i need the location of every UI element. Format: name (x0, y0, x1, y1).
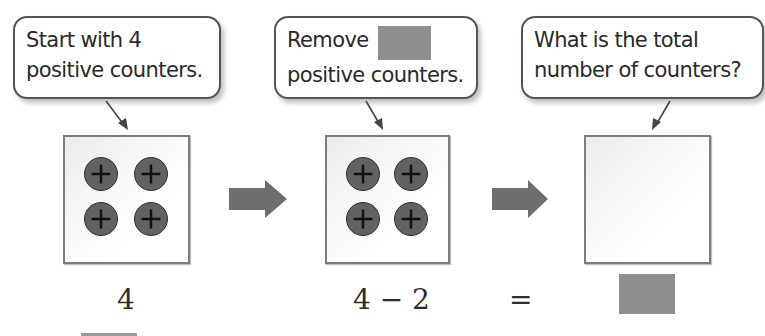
callout-start-line2: positive counters. (26, 55, 219, 85)
callout-remove-line2: positive counters. (287, 60, 476, 90)
callout-start-line1: Start with 4 (26, 25, 219, 55)
callout-remove-verb: Remove (287, 28, 369, 52)
right-arrow-icon (229, 179, 289, 219)
callout-start: Start with 4 positive counters. (13, 16, 221, 99)
counter-mat-result (584, 135, 711, 264)
positive-counter-icon (394, 202, 428, 236)
positive-counter-icon (394, 157, 428, 191)
counter-mat-start (63, 135, 190, 264)
positive-counter-icon (84, 202, 118, 236)
pointer-arrow-icon (640, 99, 680, 135)
removed-count-blank (378, 26, 431, 60)
pointer-arrow-icon (360, 99, 400, 135)
pointer-arrow-icon (100, 99, 140, 135)
positive-counter-icon (346, 157, 380, 191)
callout-remove-line1: Remove (287, 25, 476, 60)
callout-remove: Remove positive counters. (274, 16, 478, 99)
expression-equals: = (509, 283, 532, 316)
counter-mat-remove (325, 135, 450, 264)
positive-counter-icon (84, 157, 118, 191)
expression-subtract: 4 − 2 (353, 283, 430, 316)
positive-counter-icon (346, 202, 380, 236)
callout-total-line1: What is the total (534, 25, 762, 55)
positive-counter-icon (134, 157, 168, 191)
positive-counter-icon (134, 202, 168, 236)
expression-start: 4 (117, 283, 135, 316)
callout-total: What is the total number of counters? (521, 16, 764, 99)
right-arrow-icon (492, 179, 552, 219)
answer-blank (619, 274, 675, 314)
callout-total-line2: number of counters? (534, 55, 762, 85)
